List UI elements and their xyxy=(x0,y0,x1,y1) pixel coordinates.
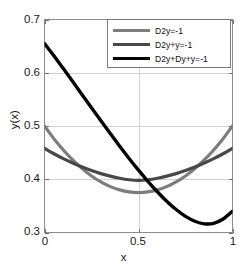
curve-series-3 xyxy=(45,43,233,224)
y-axis-title: y(x) xyxy=(9,96,21,144)
x-axis-title: x xyxy=(0,252,247,264)
curve-series-1 xyxy=(45,126,233,193)
x-tick-label-0: 0 xyxy=(31,236,59,248)
curve-series-2 xyxy=(45,148,233,180)
x-tick-label-1: 1 xyxy=(219,236,247,248)
y-tick-label-0.4: 0.4 xyxy=(14,173,40,185)
y-tick-label-0.7: 0.7 xyxy=(14,14,40,26)
legend-label-0: D2y=-1 xyxy=(155,27,183,36)
chart-figure: 0.7 0.6 0.5 0.4 0.3 0 0.5 1 x y(x) D2y=-… xyxy=(0,0,247,271)
x-tick-label-0.5: 0.5 xyxy=(124,236,152,248)
legend-label-2: D2y+Dy+y=-1 xyxy=(155,55,208,64)
legend-label-1: D2y+y=-1 xyxy=(155,41,192,50)
y-tick-label-0.6: 0.6 xyxy=(14,67,40,79)
data-curves xyxy=(45,43,233,224)
